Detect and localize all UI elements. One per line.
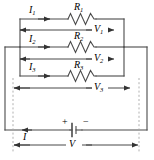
total-current-label: I	[23, 132, 26, 142]
current-label-3: I3	[29, 62, 36, 72]
resistor-1-symbol	[68, 14, 96, 25]
resistor-label-1: R1	[74, 2, 83, 12]
resistor-label-2: R2	[74, 31, 83, 41]
current-label-1: I1	[29, 5, 36, 15]
resistor-3-symbol	[68, 71, 96, 82]
battery-plus-sign: +	[62, 117, 68, 127]
resistor-2-symbol	[68, 42, 96, 53]
parallel-resistor-circuit-diagram: I1 R1 V1 I2 R2 V2 I3 R3 V3 + − I V	[0, 0, 154, 160]
voltage-label-1: V1	[94, 24, 103, 34]
total-voltage-label: V	[69, 139, 75, 149]
battery-minus-sign: −	[83, 117, 89, 127]
resistor-label-3: R3	[74, 60, 83, 70]
current-label-2: I2	[29, 34, 36, 44]
battery-symbol	[70, 124, 82, 137]
voltage-label-3: V3	[94, 82, 103, 92]
voltage-label-2: V2	[94, 53, 103, 63]
